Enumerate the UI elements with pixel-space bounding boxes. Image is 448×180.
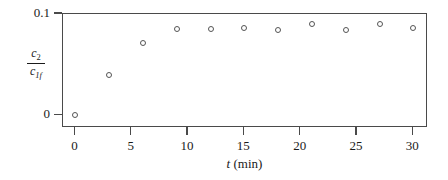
plot-frame bbox=[62, 13, 427, 127]
data-point bbox=[343, 27, 349, 33]
x-axis-label-units: (min) bbox=[233, 156, 262, 171]
y-axis-label-fraction: c2 c1f bbox=[27, 47, 45, 81]
y-axis-label-denominator: c1f bbox=[27, 64, 45, 80]
y-axis-tick-label: 0.1 bbox=[0, 6, 50, 20]
data-point bbox=[410, 25, 416, 31]
x-axis-tick-label: 15 bbox=[223, 138, 263, 153]
y-axis-tick-label: 0 bbox=[0, 107, 50, 121]
data-point bbox=[377, 21, 383, 27]
x-axis-tick bbox=[412, 127, 413, 135]
x-axis-tick bbox=[243, 127, 244, 135]
plot-data-area bbox=[63, 14, 426, 126]
y-axis-tick bbox=[54, 12, 62, 13]
x-axis-tick-label: 10 bbox=[167, 138, 207, 153]
y-axis-label-numerator-subscript: 2 bbox=[37, 52, 41, 62]
y-axis-label: c2 c1f bbox=[14, 47, 58, 81]
data-point bbox=[140, 40, 146, 46]
x-axis-tick bbox=[130, 127, 131, 135]
scatter-chart-figure: 00.1 c2 c1f 051015202530 t (min) bbox=[0, 0, 448, 180]
data-point bbox=[275, 27, 281, 33]
y-axis-label-denominator-subscript: 1f bbox=[35, 71, 42, 81]
data-point bbox=[208, 26, 214, 32]
data-point bbox=[309, 21, 315, 27]
x-axis-tick-label: 20 bbox=[280, 138, 320, 153]
x-axis-tick-label: 0 bbox=[54, 138, 94, 153]
y-axis-label-numerator: c2 bbox=[27, 47, 45, 63]
x-axis-tick bbox=[74, 127, 75, 135]
x-axis-tick-label: 25 bbox=[336, 138, 376, 153]
y-axis-tick bbox=[54, 114, 62, 115]
x-axis-tick bbox=[186, 127, 187, 135]
x-axis-tick bbox=[355, 127, 356, 135]
data-point bbox=[72, 112, 78, 118]
x-axis-tick bbox=[299, 127, 300, 135]
data-point bbox=[106, 72, 112, 78]
data-point bbox=[174, 26, 180, 32]
x-axis-tick-label: 30 bbox=[392, 138, 432, 153]
data-point bbox=[241, 25, 247, 31]
x-axis-label: t (min) bbox=[62, 156, 427, 172]
x-axis-tick-label: 5 bbox=[111, 138, 151, 153]
